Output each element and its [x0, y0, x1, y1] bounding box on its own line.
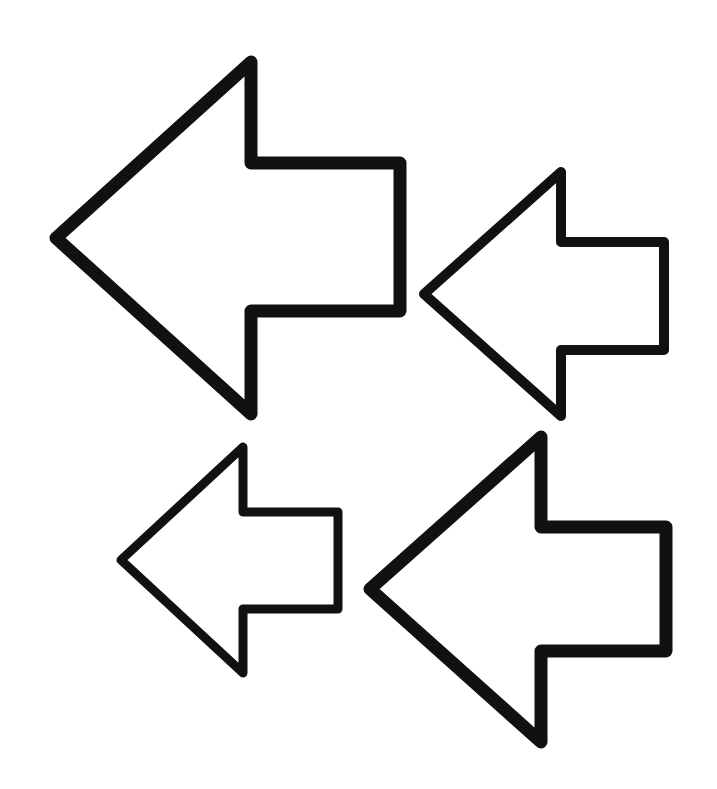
small-left-arrow-bottom-left-icon — [121, 447, 338, 673]
large-left-arrow-top-icon — [56, 62, 400, 414]
medium-left-arrow-top-right-icon — [424, 172, 664, 416]
arrows-canvas — [0, 0, 717, 789]
large-left-arrow-bottom-right-icon — [370, 437, 666, 742]
